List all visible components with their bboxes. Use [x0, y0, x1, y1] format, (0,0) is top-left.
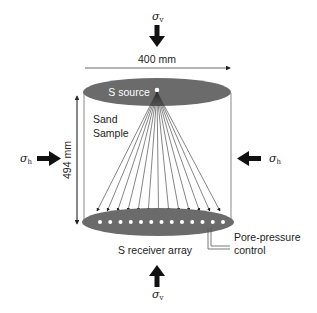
arrow-down-icon-shaft — [155, 25, 160, 37]
source-label: S source — [108, 86, 150, 98]
receiver-dot — [180, 220, 184, 224]
ray-paths — [97, 92, 220, 211]
ray-path — [138, 92, 157, 211]
ray-path — [157, 92, 179, 211]
ray-path — [157, 92, 220, 211]
receiver-dot — [139, 220, 143, 224]
sigma-v-top-label: σv — [152, 10, 164, 24]
receiver-dot — [201, 220, 205, 224]
receiver-dot — [129, 220, 133, 224]
receiver-dot — [149, 220, 153, 224]
ray-path — [157, 92, 159, 211]
receiver-dot — [221, 220, 225, 224]
ray-path — [157, 92, 169, 211]
receiver-dot — [170, 220, 174, 224]
sigma-v-bottom-label: σv — [152, 288, 164, 302]
ray-path — [157, 92, 210, 211]
receiver-dot — [160, 220, 164, 224]
ray-path — [157, 92, 200, 211]
triaxial-sample-diagram: σv 400 mm 494 mm S source Sand Sample Po… — [0, 0, 317, 313]
ray-path — [157, 92, 189, 211]
pore-label-line2: control — [234, 244, 266, 256]
arrow-down-icon — [149, 36, 165, 47]
ray-path — [97, 92, 157, 211]
receiver-dot — [211, 220, 215, 224]
sample-label-line1: Sand — [93, 113, 118, 125]
receiver-dot — [108, 220, 112, 224]
source-point — [155, 88, 160, 93]
sigma-h-left-label: σh — [20, 152, 33, 166]
receiver-dot — [190, 220, 194, 224]
arrow-left-icon — [237, 151, 249, 166]
receiver-label: S receiver array — [118, 244, 193, 256]
arrow-right-icon — [49, 151, 61, 166]
pore-label-line1: Pore-pressure — [234, 231, 301, 243]
height-label: 494 mm — [61, 141, 73, 179]
receiver-dot — [119, 220, 123, 224]
width-label: 400 mm — [138, 53, 176, 65]
arrow-up-icon — [149, 265, 165, 276]
ray-path — [118, 92, 158, 211]
vertical-stress-bottom: σv — [149, 265, 165, 302]
sigma-h-right-label: σh — [269, 152, 282, 166]
horizontal-stress-left: σh — [20, 151, 61, 166]
receiver-dot — [98, 220, 102, 224]
horizontal-stress-right: σh — [237, 151, 282, 166]
vertical-stress-top: σv — [149, 10, 165, 47]
sample-label-line2: Sample — [93, 127, 129, 139]
